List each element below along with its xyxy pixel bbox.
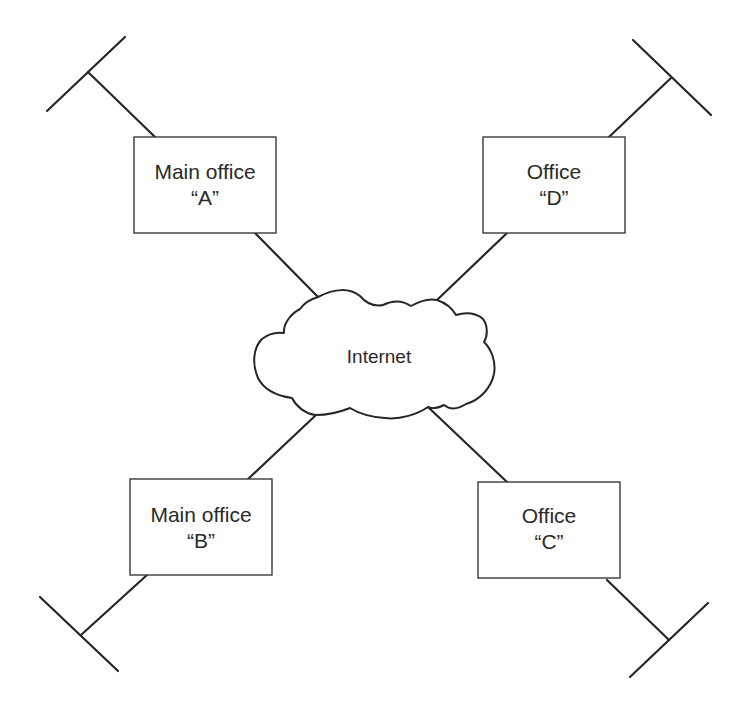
lan-drop-b [81,575,147,635]
internet-label: Internet [347,346,412,367]
lan-drop-d [609,78,671,137]
internet-cloud: Internet [254,290,494,418]
office-a-id: “A” [191,186,219,209]
office-box-c: Office “C” [478,482,620,578]
link-c-internet [428,407,507,482]
lan-drop-c [607,580,669,640]
office-b-name: Main office [150,503,251,526]
office-b-id: “B” [187,529,215,552]
office-box-a: Main office “A” [134,137,276,233]
lan-segment-c [607,580,708,677]
lan-bus-a [47,37,125,111]
lan-segment-b [40,575,147,671]
lan-segment-d [609,40,711,137]
office-d-id: “D” [539,186,568,209]
office-d-rect [483,137,625,233]
office-box-d: Office “D” [483,137,625,233]
office-d-name: Office [527,160,581,183]
network-diagram: Internet Main office “A” Office “D” Main… [0,0,747,711]
lan-drop-a [88,72,155,137]
office-box-b: Main office “B” [130,479,272,575]
office-b-rect [130,479,272,575]
link-d-internet [437,233,507,300]
office-c-name: Office [522,504,576,527]
lan-segment-a [47,37,155,137]
office-a-rect [134,137,276,233]
link-a-internet [255,233,318,297]
office-c-id: “C” [534,530,563,553]
link-b-internet [247,415,316,480]
office-a-name: Main office [154,160,255,183]
lan-bus-b [40,597,118,671]
